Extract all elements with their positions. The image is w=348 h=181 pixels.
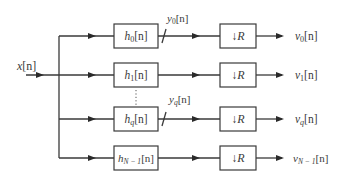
branch-n-minus-1: hN − 1[n] ↓R vN − 1[n] — [59, 146, 328, 170]
input-signal: x[n] — [16, 59, 59, 78]
input-label: x[n] — [16, 59, 36, 73]
filter-h1-label: h1[n] — [124, 69, 147, 83]
arrow-icon — [276, 33, 284, 39]
arrow-icon — [88, 72, 96, 78]
arrow-icon — [276, 155, 284, 161]
downsampler-1-label: ↓R — [231, 68, 245, 82]
arrow-icon — [192, 116, 200, 122]
filter-bank-diagram: x[n] h0[n] y0[n] ↓R v0[n] h1[n] ↓R v1[n] — [0, 0, 348, 181]
arrow-icon — [276, 72, 284, 78]
arrow-icon — [192, 33, 200, 39]
downsampler-q-label: ↓R — [231, 112, 245, 126]
downsampler-n-minus-1-label: ↓R — [231, 151, 245, 165]
branch-1: h1[n] ↓R v1[n] — [59, 63, 318, 87]
intermediate-y0-label: y0[n] — [166, 12, 188, 26]
output-vN-1-label: vN − 1[n] — [293, 152, 328, 166]
arrow-icon — [192, 72, 200, 78]
filter-h0-label: h0[n] — [124, 30, 147, 44]
arrow-icon — [276, 116, 284, 122]
branch-q: hq[n] yq[n] ↓R vq[n] — [59, 93, 318, 131]
output-v1-label: v1[n] — [295, 69, 318, 83]
output-vq-label: vq[n] — [295, 113, 318, 127]
downsampler-0-label: ↓R — [231, 29, 245, 43]
output-v0-label: v0[n] — [295, 30, 318, 44]
intermediate-yq-label: yq[n] — [168, 93, 190, 107]
arrow-icon — [88, 116, 96, 122]
filter-hq-label: hq[n] — [124, 113, 147, 127]
arrow-icon — [88, 155, 96, 161]
arrow-icon — [88, 33, 96, 39]
arrow-icon — [192, 155, 200, 161]
branch-0: h0[n] y0[n] ↓R v0[n] — [59, 12, 318, 48]
input-arrow-icon — [36, 72, 44, 78]
